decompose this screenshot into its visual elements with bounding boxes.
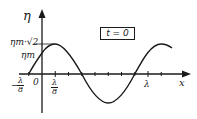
time-label-box: t = 0 xyxy=(100,27,135,40)
lambda-label: λ xyxy=(144,80,150,89)
fraction-denominator: 8 xyxy=(51,88,58,96)
crest-value-label: ηm·√2 xyxy=(10,38,38,47)
neg-fraction-denominator: 8 xyxy=(17,86,24,94)
origin-label: 0 xyxy=(33,78,39,87)
lambda-eighth-label: λ 8 xyxy=(51,79,58,96)
amplitude-label: ηm xyxy=(21,51,35,60)
neg-lambda-eighth-label: λ 8 xyxy=(17,77,24,94)
eta-axis-label: η xyxy=(23,9,31,22)
x-axis-label: x xyxy=(179,78,185,88)
eta-axis-arrow-icon xyxy=(39,9,46,18)
